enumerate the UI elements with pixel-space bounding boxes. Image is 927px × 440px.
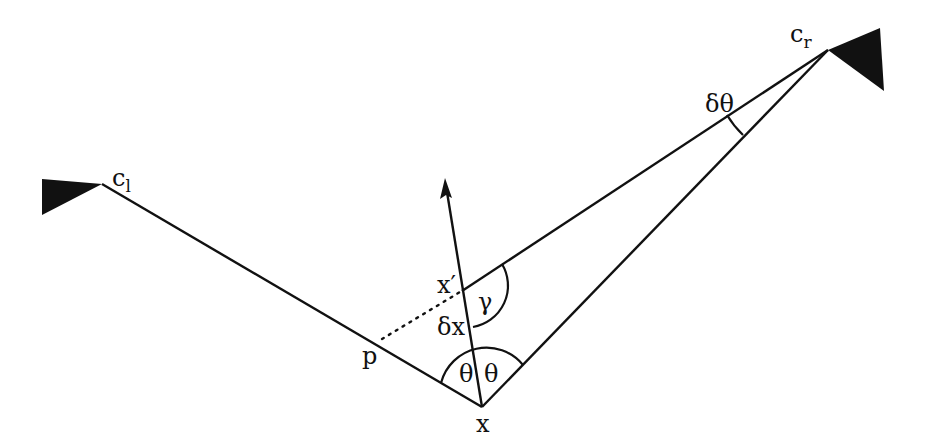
arrowhead-icon (440, 178, 452, 199)
label-c-right: cr (790, 20, 812, 52)
label-p: p (362, 342, 377, 370)
label-delta-x: δx (437, 313, 465, 341)
ray-x-prime-to-right-camera (462, 50, 828, 291)
camera-left-icon (42, 179, 102, 215)
stereo-geometry-diagram: cl cr δθ x′ γ δx p θ θ x (0, 0, 927, 440)
label-c-left: cl (112, 164, 131, 196)
delta-theta-angle-arc (727, 115, 743, 135)
label-theta-right: θ (484, 360, 498, 388)
label-delta-theta: δθ (705, 90, 734, 118)
camera-right-icon (828, 28, 884, 91)
label-theta-left: θ (459, 360, 473, 388)
label-x-prime: x′ (437, 271, 456, 299)
label-gamma: γ (478, 288, 492, 316)
label-x: x (476, 410, 490, 438)
ray-left-camera-to-x (102, 184, 482, 407)
ray-x-to-right-camera (482, 50, 828, 407)
